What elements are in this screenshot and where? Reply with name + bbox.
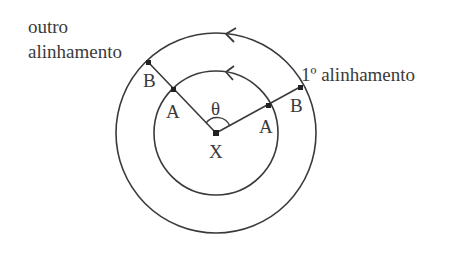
point-a-left xyxy=(171,87,176,92)
label-center-x: X xyxy=(209,141,223,162)
label-b-right: B xyxy=(290,95,303,116)
center-point-x xyxy=(213,130,219,136)
label-b-left: B xyxy=(143,70,156,91)
point-b-left xyxy=(146,60,151,65)
label-alinhamento: alinhamento xyxy=(28,41,122,62)
point-b-right xyxy=(298,85,303,90)
label-a-left: A xyxy=(166,101,180,122)
label-theta: θ xyxy=(211,98,220,119)
point-a-right xyxy=(266,103,271,108)
first-alignment-line xyxy=(216,87,300,133)
label-first-alignment: 1º alinhamento xyxy=(301,64,415,85)
label-outro: outro xyxy=(28,16,68,37)
label-a-right: A xyxy=(259,116,273,137)
orbit-diagram: outro alinhamento 1º alinhamento B A θ A… xyxy=(0,0,463,258)
